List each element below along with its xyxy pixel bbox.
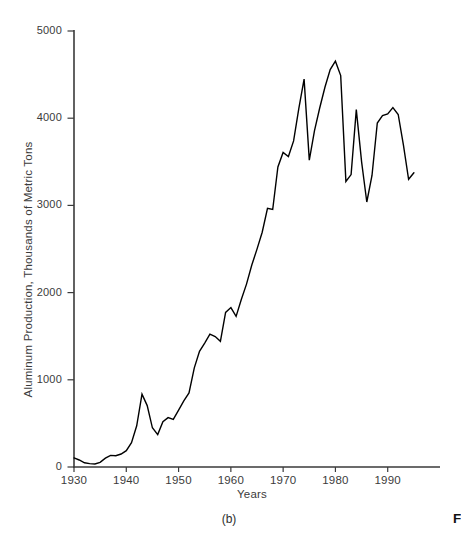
y-axis-title: Aluminum Production, Thousands of Metric…: [21, 120, 36, 420]
x-tick-label: 1980: [315, 474, 355, 487]
production-line: [74, 61, 414, 464]
aluminum-production-line-chart: [0, 0, 461, 544]
x-tick-label: 1970: [263, 474, 303, 487]
figure-panel-b: 0100020003000400050001930194019501960197…: [0, 0, 461, 544]
panel-label: (b): [209, 512, 249, 526]
y-tick-label: 5000: [22, 24, 62, 37]
x-tick-label: 1930: [54, 474, 94, 487]
y-tick-label: 0: [22, 460, 62, 473]
x-tick-label: 1950: [159, 474, 199, 487]
x-tick-label: 1990: [368, 474, 408, 487]
x-axis-title: Years: [212, 488, 292, 500]
x-tick-label: 1960: [211, 474, 251, 487]
figure-caption-fragment: F: [453, 511, 461, 526]
x-tick-label: 1940: [106, 474, 146, 487]
